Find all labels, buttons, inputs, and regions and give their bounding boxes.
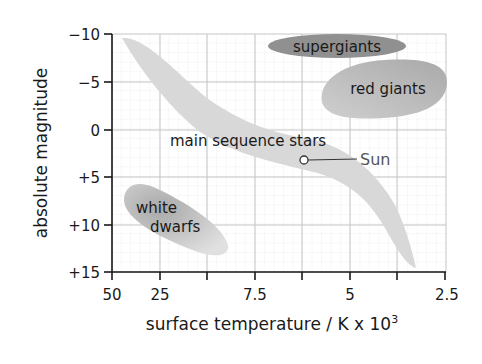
y-tick-label: −5	[78, 74, 100, 92]
x-tick-label: 50	[102, 286, 121, 304]
x-tick-label: 7.5	[243, 286, 267, 304]
x-tick-label: 2.5	[435, 286, 459, 304]
x-tick-label: 5	[345, 286, 355, 304]
x-axis-title: surface temperature / K x 103	[146, 313, 398, 334]
white-dwarfs-label-line2: dwarfs	[150, 218, 200, 236]
y-tick-label: +15	[68, 264, 100, 282]
sun-label: Sun	[360, 150, 390, 169]
sun-marker	[300, 156, 308, 164]
y-tick-label: −10	[68, 26, 100, 44]
y-tick-label: +5	[78, 169, 100, 187]
red-giants-label: red giants	[350, 80, 426, 98]
hr-diagram-chart: supergiants red giants white dwarfs main…	[0, 0, 482, 364]
main-sequence-label: main sequence stars	[170, 132, 326, 150]
x-tick-labels: 50 25 7.5 5 2.5	[102, 286, 458, 304]
x-tick-label: 25	[150, 286, 169, 304]
supergiants-label: supergiants	[293, 38, 381, 56]
y-axis-title: absolute magnitude	[31, 68, 51, 238]
y-tick-label: +10	[68, 217, 100, 235]
y-tick-labels: −10 −5 0 +5 +10 +15	[68, 26, 100, 282]
y-tick-label: 0	[90, 122, 100, 140]
white-dwarfs-label-line1: white	[136, 199, 177, 217]
